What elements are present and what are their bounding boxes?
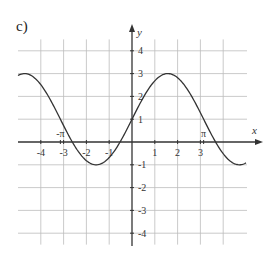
x-tick-label: -3	[59, 147, 67, 158]
x-tick-label: -4	[37, 147, 45, 158]
function-plot: xy-4-3-2-1123-ππ4321-1-2-3-4	[0, 0, 275, 267]
y-axis-label: y	[136, 26, 142, 38]
x-tick-label: 1	[152, 147, 157, 158]
x-pi-tick-label: -π	[56, 128, 64, 139]
x-pi-tick-label: π	[201, 128, 206, 139]
x-tick-label: -2	[82, 147, 90, 158]
y-tick-label: -3	[138, 205, 146, 216]
y-tick-label: 4	[138, 45, 143, 56]
x-tick-label: 2	[175, 147, 180, 158]
x-axis-arrow-icon	[255, 139, 263, 145]
x-tick-label: -1	[105, 147, 113, 158]
y-tick-label: -2	[138, 182, 146, 193]
y-tick-label: -1	[138, 159, 146, 170]
x-tick-label: 3	[198, 147, 203, 158]
y-tick-label: -4	[138, 228, 146, 239]
y-axis-arrow-icon	[129, 24, 135, 32]
y-tick-label: 1	[138, 114, 143, 125]
y-tick-label: 3	[138, 68, 143, 79]
x-axis-label: x	[251, 124, 257, 136]
tick-labels: xy-4-3-2-1123-ππ4321-1-2-3-4	[37, 26, 257, 239]
